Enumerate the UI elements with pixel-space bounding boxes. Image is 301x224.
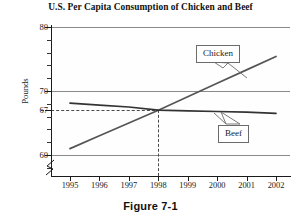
y-minor-tick bbox=[47, 117, 52, 118]
beef-series-label: Beef bbox=[218, 125, 249, 143]
y-tick-label-67: 67 bbox=[22, 106, 48, 115]
y-minor-tick bbox=[47, 53, 52, 54]
y-minor-tick bbox=[47, 129, 52, 130]
gridline-70 bbox=[52, 91, 290, 92]
chicken-series-label: Chicken bbox=[196, 45, 240, 63]
y-tick-label-60: 60 bbox=[22, 151, 48, 160]
y-minor-tick bbox=[47, 78, 52, 79]
figure-caption: Figure 7-1 bbox=[0, 200, 301, 212]
x-tick-label-2002: 2002 bbox=[259, 182, 293, 190]
axis-break-icon bbox=[44, 159, 58, 176]
y-minor-tick bbox=[47, 40, 52, 41]
figure-container: U.S. Per Capita Consumption of Chicken a… bbox=[0, 0, 301, 224]
plot-area bbox=[52, 26, 290, 176]
guide-line-horizontal-67 bbox=[41, 110, 165, 111]
y-minor-tick bbox=[47, 65, 52, 66]
y-tick-label-70: 70 bbox=[22, 87, 48, 96]
chart-title: U.S. Per Capita Consumption of Chicken a… bbox=[0, 2, 301, 12]
y-minor-tick bbox=[47, 142, 52, 143]
gridline-60 bbox=[52, 155, 290, 156]
gridline-80 bbox=[52, 27, 290, 28]
x-axis-line bbox=[51, 176, 291, 177]
guide-line-vertical-1998 bbox=[158, 110, 159, 176]
y-tick-label-80: 80 bbox=[22, 23, 48, 32]
